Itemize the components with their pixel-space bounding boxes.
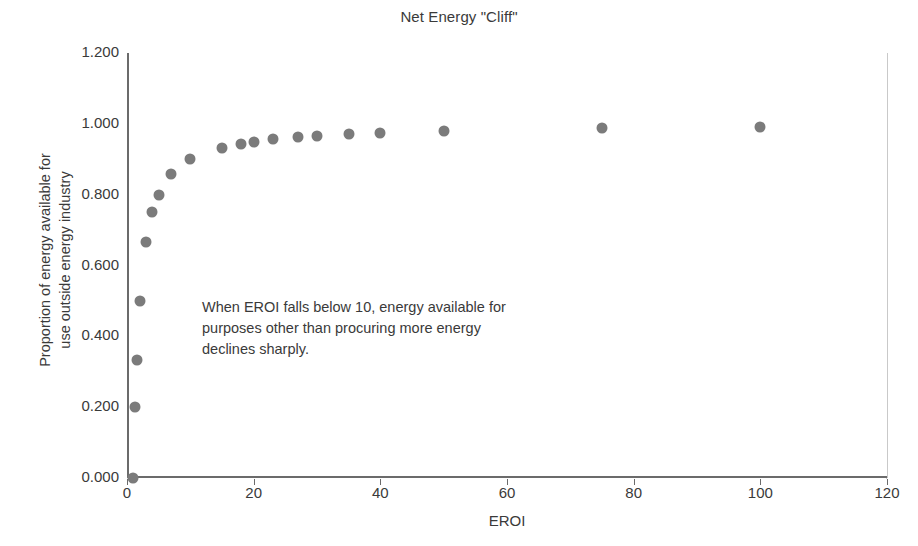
x-tick-label-2: 40	[372, 484, 389, 501]
data-point	[153, 189, 164, 200]
data-point	[131, 355, 142, 366]
gridline-vertical-6	[887, 53, 888, 478]
data-point	[185, 154, 196, 165]
y-tick-label-3: 0.600	[81, 256, 119, 273]
y-tick-label-2: 0.400	[81, 326, 119, 343]
x-tick-label-1: 20	[245, 484, 262, 501]
data-point	[267, 134, 278, 145]
annotation-line-2: purposes other than procuring more energ…	[202, 318, 622, 339]
y-tick-label-5: 1.000	[81, 114, 119, 131]
chart-title: Net Energy "Cliff"	[0, 8, 918, 25]
x-axis-title: EROI	[127, 512, 887, 529]
x-tick-label-6: 120	[874, 484, 899, 501]
x-tick-label-4: 80	[625, 484, 642, 501]
data-point	[248, 136, 259, 147]
data-point	[375, 127, 386, 138]
data-point	[755, 122, 766, 133]
y-tick-label-0: 0.000	[81, 468, 119, 485]
data-point	[147, 207, 158, 218]
data-point	[166, 169, 177, 180]
data-point	[438, 125, 449, 136]
data-point	[597, 123, 608, 134]
y-tick-label-1: 0.200	[81, 397, 119, 414]
data-point	[128, 473, 139, 484]
x-tick-label-0: 0	[123, 484, 131, 501]
data-point	[312, 130, 323, 141]
data-point	[293, 131, 304, 142]
data-point	[236, 138, 247, 149]
y-axis-title-line-2: use outside energy industry	[55, 95, 75, 425]
x-tick-label-3: 60	[499, 484, 516, 501]
net-energy-cliff-chart: Net Energy "Cliff" 0.0000.2000.4000.6000…	[0, 0, 918, 546]
data-point	[217, 142, 228, 153]
data-point	[343, 129, 354, 140]
y-axis-title-line-1: Proportion of energy available for	[35, 95, 55, 425]
y-tick-label-4: 0.800	[81, 185, 119, 202]
data-point	[141, 236, 152, 247]
data-point	[134, 295, 145, 306]
y-axis-title: Proportion of energy available for use o…	[35, 95, 75, 425]
annotation-line-3: declines sharply.	[202, 339, 622, 360]
chart-annotation: When EROI falls below 10, energy availab…	[202, 297, 622, 360]
plot-area	[127, 53, 887, 478]
x-tick-label-5: 100	[748, 484, 773, 501]
y-tick-label-6: 1.200	[81, 43, 119, 60]
data-point	[129, 402, 140, 413]
annotation-line-1: When EROI falls below 10, energy availab…	[202, 297, 622, 318]
